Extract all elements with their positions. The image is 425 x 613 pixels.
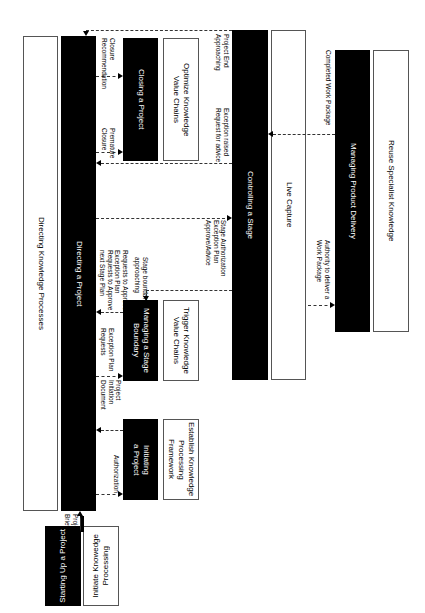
flow-authority-to-deliver: Authority to deliver a Work Package xyxy=(315,240,331,299)
process-starting-up-label: Starting Up a Project xyxy=(58,529,68,603)
knowledge-initiate: Initiate Knowedge Processing xyxy=(83,526,119,606)
process-managing-product-delivery-label: Managing Product Delivery xyxy=(348,143,358,239)
knowledge-reuse: Reuse Specialist Knowledge xyxy=(373,50,409,332)
process-closing: Closing a Project xyxy=(123,38,158,161)
process-closing-label: Closing a Project xyxy=(136,69,146,129)
knowledge-trigger: Trigger Knowledge Value Chains xyxy=(163,300,199,381)
knowledge-initiate-label: Initiate Knowedge Processing xyxy=(91,534,111,598)
flow-project-end-approaching: Project End Approaching xyxy=(214,34,230,71)
knowledge-trigger-label: Trigger Knowledge Value Chains xyxy=(171,307,191,374)
flow-project-brief: Project Brief xyxy=(63,514,79,534)
flow-closure-recommendation: Closure Recommendation xyxy=(100,38,116,89)
flow-stage-authorization: Stage Authorization Exception Plan Appro… xyxy=(204,220,227,276)
knowledge-directing: Directing Knowledge Processes xyxy=(23,36,58,511)
process-managing-stage-boundary-label: Managing a Stage Boundary xyxy=(131,308,151,373)
process-managing-product-delivery: Managing Product Delivery xyxy=(335,50,370,332)
knowledge-live-capture-label: Live Capture xyxy=(284,182,294,227)
flow-authorization: Authorization xyxy=(112,455,120,493)
process-managing-stage-boundary: Managing a Stage Boundary xyxy=(123,300,158,381)
process-initiating: Initiating a Project xyxy=(123,419,158,500)
knowledge-optimize: Optimize Knowledge Value Chains xyxy=(163,38,199,161)
knowledge-establish-label: Establish Knowledge Processing Framework xyxy=(166,420,196,499)
knowledge-optimize-label: Optimize Knowledge Value Chains xyxy=(171,63,191,136)
flow-completed-work-package: Completed Work Package xyxy=(324,50,332,125)
process-directing-label: Directing a Project xyxy=(74,241,84,306)
flow-requests-to-approve: Requests to Approve Exception Plan Reque… xyxy=(98,250,129,310)
knowledge-directing-label: Directing Knowledge Processes xyxy=(36,217,46,330)
process-initiating-label: Initiating a Project xyxy=(131,444,151,476)
flow-premature-closure: Premature Closure xyxy=(100,128,116,158)
process-controlling-stage: Controlling a Stage xyxy=(232,30,268,380)
knowledge-reuse-label: Reuse Specialist Knowledge xyxy=(386,140,396,241)
flow-project-initiation-document: Project Initiation Document xyxy=(99,380,122,410)
process-starting-up: Starting Up a Project xyxy=(45,526,81,606)
process-directing: Directing a Project xyxy=(61,36,96,511)
flow-exception-plan-requests: Exception Plan Requests xyxy=(99,328,115,371)
knowledge-establish: Establish Knowledge Processing Framework xyxy=(163,419,199,500)
process-controlling-stage-label: Controlling a Stage xyxy=(245,171,255,239)
knowledge-live-capture: Live Capture xyxy=(271,30,306,380)
flow-exception-raised: Exception raised Request for advice xyxy=(214,108,230,162)
